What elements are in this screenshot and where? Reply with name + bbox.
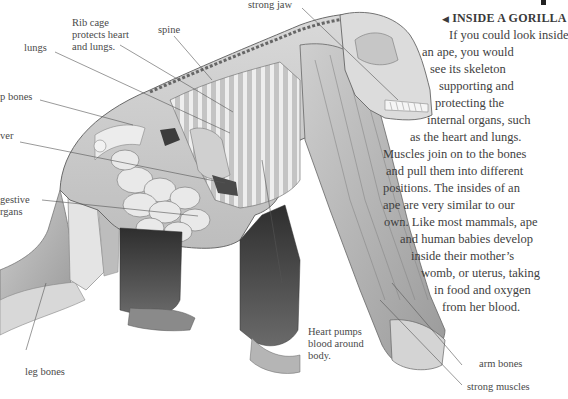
heading-text: INSIDE A GORILLA	[452, 11, 567, 25]
body-line: protecting the	[435, 95, 504, 111]
label-rib-cage: Rib cage protects heart and lungs.	[72, 17, 129, 53]
body-line: womb, or uterus, taking	[421, 265, 540, 281]
body-line: see its skeleton	[430, 61, 506, 77]
body-line: Muscles join on to the bones	[383, 146, 526, 162]
body-line: as the heart and lungs.	[410, 129, 521, 145]
label-strong-jaw: strong jaw	[248, 0, 292, 11]
label-leg-bones: leg bones	[25, 366, 65, 378]
label-hip-bones: p bones	[0, 91, 32, 103]
label-digestive-organs: gestive rgans	[0, 194, 30, 218]
body-line: inside their mother’s	[411, 248, 514, 264]
label-strong-muscles: strong muscles	[467, 381, 530, 393]
body-line: If you could look inside	[449, 27, 568, 43]
label-lungs: lungs	[24, 42, 47, 54]
rear-leg-fur	[120, 228, 182, 316]
label-arm-bones: arm bones	[479, 358, 522, 370]
label-heart: Heart pumps blood around body.	[308, 326, 364, 362]
article-heading: ◀INSIDE A GORILLA	[442, 11, 567, 26]
front-leg-fur	[240, 205, 300, 346]
body-line: and pull them into different	[386, 163, 523, 179]
body-line: internal organs, such	[427, 112, 531, 128]
body-line: and human babies develop	[400, 231, 533, 247]
body-line: an ape, you would	[422, 44, 514, 60]
body-line: in food and oxygen	[434, 282, 531, 298]
body-line: own. Like most mammals, ape	[384, 214, 537, 230]
label-liver: ver	[0, 130, 13, 142]
triangle-pointer-icon: ◀	[442, 14, 449, 24]
body-line: from her blood.	[442, 299, 520, 315]
label-spine: spine	[158, 24, 180, 36]
body-line: ape are very similar to our	[383, 197, 515, 213]
body-line: positions. The insides of an	[383, 180, 520, 196]
body-line: supporting and	[439, 78, 514, 94]
page-corner-mark	[541, 0, 546, 5]
